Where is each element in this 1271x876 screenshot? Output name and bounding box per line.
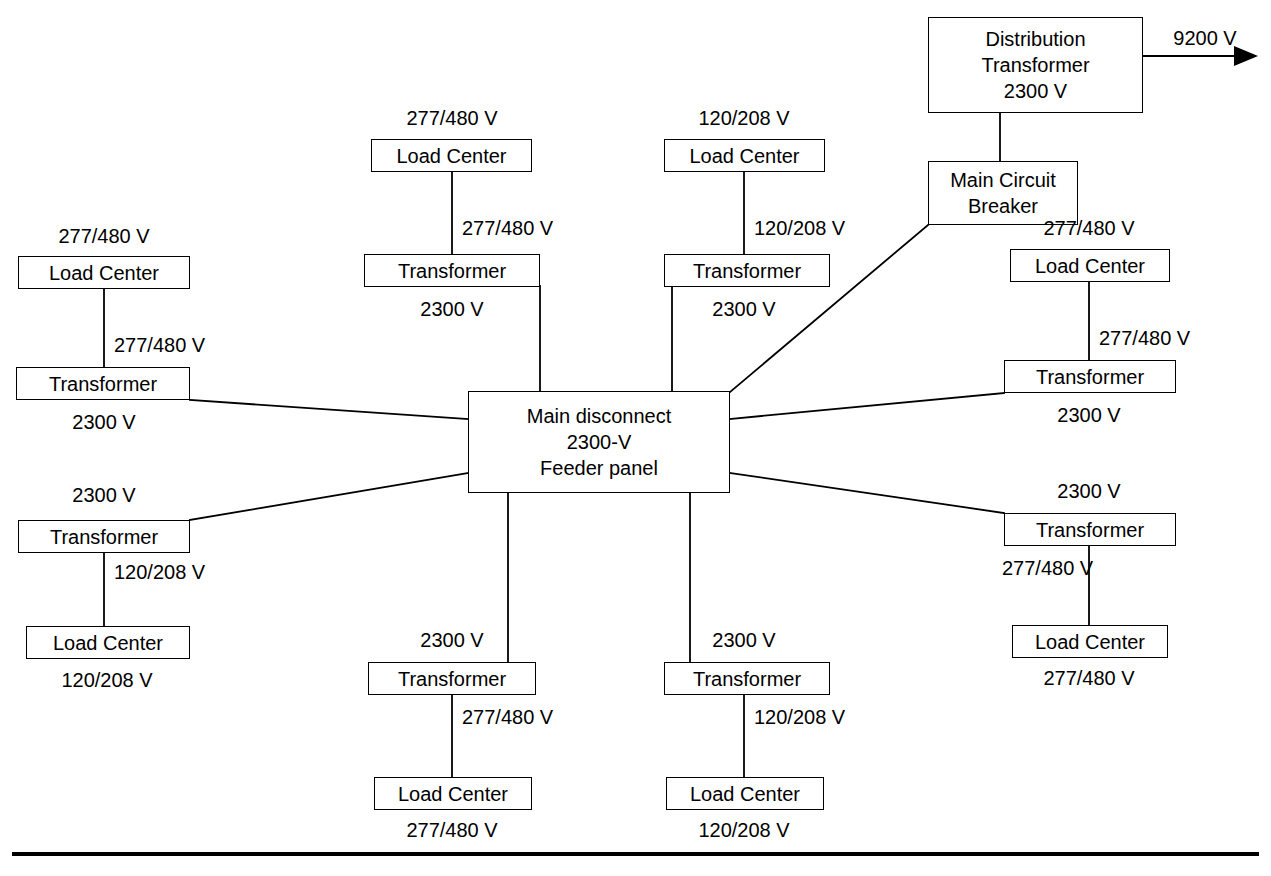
distribution-transformer-line-3: 2300 V [1004,78,1067,104]
transformer-left-lower-label: Transformer [50,524,158,550]
bottom-divider-rule [12,852,1259,856]
outgoing-feed-voltage-label: 9200 V [1173,28,1236,48]
label-bottom-left-mid: 277/480 V [462,707,553,727]
transformer-right-upper-label: Transformer [1036,364,1144,390]
main-circuit-breaker-line-2: Breaker [968,193,1038,219]
label-left-lower-mid: 120/208 V [114,562,205,582]
label-top-left-mid: 277/480 V [462,218,553,238]
label-top-right-mid: 120/208 V [754,218,845,238]
label-right-upper-transformer: 2300 V [1057,405,1120,425]
label-right-upper-load-center-top: 277/480 V [1043,218,1134,238]
power-distribution-diagram: Distribution Transformer 2300 V Main Cir… [0,0,1271,876]
label-right-lower-load-center-bottom: 277/480 V [1043,668,1134,688]
load-center-left-upper-label: Load Center [49,260,159,286]
transformer-top-right[interactable]: Transformer [664,254,830,287]
main-disconnect-panel-line-3: Feeder panel [540,455,658,481]
label-bottom-left-load-center-bottom: 277/480 V [406,820,497,840]
transformer-top-right-label: Transformer [693,258,801,284]
transformer-right-upper[interactable]: Transformer [1004,360,1176,393]
load-center-top-right-label: Load Center [689,143,799,169]
transformer-left-upper-label: Transformer [49,371,157,397]
transformer-right-lower-label: Transformer [1036,517,1144,543]
label-bottom-left-transformer-top: 2300 V [420,630,483,650]
label-top-right-load-center-top: 120/208 V [698,108,789,128]
wire-left-upper-to-panel [190,400,468,419]
label-right-lower-transformer-top: 2300 V [1057,481,1120,501]
transformer-left-lower[interactable]: Transformer [18,520,190,553]
transformer-bottom-left[interactable]: Transformer [368,662,536,695]
wire-right-lower-to-panel [730,473,1004,513]
wire-left-lower-to-panel [190,473,468,520]
load-center-bottom-left[interactable]: Load Center [374,777,532,810]
main-circuit-breaker-line-1: Main Circuit [950,167,1056,193]
transformer-left-upper[interactable]: Transformer [16,367,190,400]
label-right-lower-mid: 277/480 V [1002,558,1093,578]
distribution-transformer-line-1: Distribution [985,26,1085,52]
arrow-right-icon [1234,46,1258,66]
label-right-upper-mid: 277/480 V [1099,328,1190,348]
wire-right-upper-to-panel [730,393,1004,419]
transformer-bottom-right-label: Transformer [693,666,801,692]
load-center-top-left[interactable]: Load Center [371,139,532,172]
load-center-right-upper-label: Load Center [1035,253,1145,279]
load-center-right-lower-label: Load Center [1035,629,1145,655]
load-center-bottom-right-label: Load Center [690,781,800,807]
main-disconnect-panel-box[interactable]: Main disconnect 2300-V Feeder panel [468,391,730,493]
distribution-transformer-line-2: Transformer [981,52,1089,78]
label-bottom-right-mid: 120/208 V [754,707,845,727]
load-center-bottom-right[interactable]: Load Center [666,777,824,810]
transformer-top-left-label: Transformer [398,258,506,284]
transformer-bottom-left-label: Transformer [398,666,506,692]
transformer-right-lower[interactable]: Transformer [1004,513,1176,546]
main-disconnect-panel-line-1: Main disconnect [527,403,672,429]
load-center-bottom-left-label: Load Center [398,781,508,807]
label-left-upper-mid: 277/480 V [114,335,205,355]
label-bottom-right-load-center-bottom: 120/208 V [698,820,789,840]
label-left-upper-transformer: 2300 V [72,412,135,432]
load-center-top-left-label: Load Center [396,143,506,169]
label-left-lower-load-center-bottom: 120/208 V [61,670,152,690]
label-left-upper-load-center-top: 277/480 V [58,226,149,246]
label-bottom-right-transformer-top: 2300 V [712,630,775,650]
load-center-top-right[interactable]: Load Center [664,139,825,172]
load-center-left-lower-label: Load Center [53,630,163,656]
load-center-left-lower[interactable]: Load Center [26,626,190,659]
label-top-right-transformer: 2300 V [712,299,775,319]
main-disconnect-panel-line-2: 2300-V [567,429,632,455]
distribution-transformer-box[interactable]: Distribution Transformer 2300 V [928,17,1143,113]
load-center-right-lower[interactable]: Load Center [1012,625,1168,658]
label-top-left-load-center-top: 277/480 V [406,108,497,128]
load-center-left-upper[interactable]: Load Center [18,256,190,289]
main-circuit-breaker-box[interactable]: Main Circuit Breaker [928,161,1078,225]
label-left-lower-transformer-top: 2300 V [72,485,135,505]
load-center-right-upper[interactable]: Load Center [1010,249,1170,282]
label-top-left-transformer: 2300 V [420,299,483,319]
transformer-top-left[interactable]: Transformer [364,254,540,287]
transformer-bottom-right[interactable]: Transformer [664,662,830,695]
